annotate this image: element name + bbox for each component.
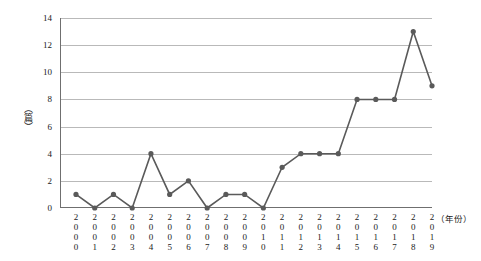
- data-point: [261, 205, 266, 210]
- data-point: [223, 192, 228, 197]
- y-tick-label: 14: [12, 13, 52, 23]
- y-tick-label: 12: [12, 40, 52, 50]
- x-tick-label: 2007: [202, 212, 212, 252]
- x-tick-label: 2008: [221, 212, 231, 252]
- y-tick-label: 8: [12, 94, 52, 104]
- x-tick-label: 2003: [127, 212, 137, 252]
- x-tick-label: 2002: [108, 212, 118, 252]
- data-point: [148, 151, 153, 156]
- x-tick-label: 2014: [333, 212, 343, 252]
- x-tick-label: 2018: [408, 212, 418, 252]
- y-tick-label: 2: [12, 176, 52, 186]
- data-point: [186, 178, 191, 183]
- y-tick-label: 0: [12, 203, 52, 213]
- x-tick-label: 2017: [390, 212, 400, 252]
- data-point: [111, 192, 116, 197]
- line-series: [60, 18, 432, 208]
- x-tick-label: 2006: [183, 212, 193, 252]
- x-tick-label: 2011: [277, 212, 287, 252]
- data-point: [280, 165, 285, 170]
- data-point: [392, 97, 397, 102]
- data-point: [167, 192, 172, 197]
- data-point: [298, 151, 303, 156]
- y-tick-label: 6: [12, 122, 52, 132]
- data-point: [429, 83, 434, 88]
- data-point: [317, 151, 322, 156]
- chart-container: （篇） 0 2 4 6 8 10 12 14 20002001200220032…: [0, 0, 481, 261]
- x-tick-label: 2004: [146, 212, 156, 252]
- x-tick-label: 2010: [258, 212, 268, 252]
- x-tick-label: 2012: [296, 212, 306, 252]
- data-point: [354, 97, 359, 102]
- data-point: [336, 151, 341, 156]
- y-axis-tick-labels: 0 2 4 6 8 10 12 14: [8, 18, 52, 208]
- x-tick-label: 2000: [71, 212, 81, 252]
- data-point: [92, 205, 97, 210]
- data-point: [373, 97, 378, 102]
- x-tick-label: 2001: [90, 212, 100, 252]
- x-tick-label: 2015: [352, 212, 362, 252]
- y-tick-label: 4: [12, 149, 52, 159]
- x-tick-label: 2013: [315, 212, 325, 252]
- plot-area: [60, 18, 432, 208]
- x-tick-label: 2009: [240, 212, 250, 252]
- data-point: [205, 205, 210, 210]
- x-axis-tick-labels: 2000200120022003200420052006200720082009…: [60, 212, 432, 258]
- data-point: [411, 29, 416, 34]
- x-tick-label: 2005: [165, 212, 175, 252]
- x-tick-label: 2016: [371, 212, 381, 252]
- data-point: [242, 192, 247, 197]
- y-tick-label: 10: [12, 67, 52, 77]
- data-point: [130, 205, 135, 210]
- data-point: [73, 192, 78, 197]
- x-axis-title: （年份）: [436, 212, 472, 224]
